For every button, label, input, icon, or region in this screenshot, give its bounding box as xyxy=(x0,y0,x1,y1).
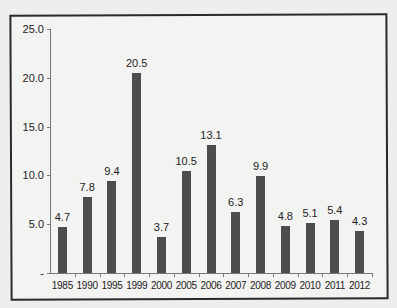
x-tick xyxy=(124,273,125,277)
x-tick-label: 2007 xyxy=(224,280,248,292)
x-tick xyxy=(347,273,348,277)
x-tick-label: 1995 xyxy=(100,280,124,292)
bar-value-label: 10.5 xyxy=(166,155,206,167)
x-tick-label: 2011 xyxy=(323,280,347,292)
x-tick-label: 2005 xyxy=(174,280,198,292)
bar-value-label: 20.5 xyxy=(117,57,157,69)
bar-value-label: 4.7 xyxy=(42,211,82,223)
bar xyxy=(83,197,92,273)
y-tick xyxy=(47,127,51,128)
y-tick-label: 15.0 xyxy=(14,121,44,133)
x-tick-label: 1985 xyxy=(50,280,74,292)
x-tick-label: 1990 xyxy=(75,280,99,292)
bar-value-label: 9.9 xyxy=(241,160,281,172)
x-tick xyxy=(372,273,373,277)
bar xyxy=(107,181,116,273)
x-tick xyxy=(174,273,175,277)
bar-value-label: 3.7 xyxy=(141,221,181,233)
bar xyxy=(207,145,216,273)
bar xyxy=(58,227,67,273)
x-tick xyxy=(199,273,200,277)
x-tick xyxy=(223,273,224,277)
y-axis xyxy=(50,29,51,274)
x-tick xyxy=(273,273,274,277)
y-tick-label: 5.0 xyxy=(14,218,44,230)
bar xyxy=(256,176,265,273)
bar-value-label: 7.8 xyxy=(67,181,107,193)
bar xyxy=(306,223,315,273)
bar xyxy=(231,212,240,273)
bar-value-label: 6.3 xyxy=(216,196,256,208)
bar-value-label: 13.1 xyxy=(191,129,231,141)
x-tick xyxy=(75,273,76,277)
bar-value-label: 4.3 xyxy=(340,215,380,227)
x-tick xyxy=(322,273,323,277)
y-tick xyxy=(47,175,51,176)
y-tick xyxy=(47,29,51,30)
x-tick-label: 2006 xyxy=(199,280,223,292)
x-tick-label: 2008 xyxy=(249,280,273,292)
y-tick-label: 25.0 xyxy=(14,23,44,35)
bar xyxy=(330,220,339,273)
x-axis xyxy=(50,273,372,274)
x-tick xyxy=(100,273,101,277)
y-tick xyxy=(47,224,51,225)
x-tick xyxy=(248,273,249,277)
y-tick-label: - xyxy=(14,267,44,279)
bar xyxy=(132,73,141,273)
bar xyxy=(182,171,191,273)
bar xyxy=(281,226,290,273)
x-tick xyxy=(298,273,299,277)
y-tick-label: 20.0 xyxy=(14,72,44,84)
bar xyxy=(157,237,166,273)
bar-value-label: 9.4 xyxy=(92,165,132,177)
x-tick-label: 1999 xyxy=(125,280,149,292)
x-tick xyxy=(149,273,150,277)
x-tick-label: 2009 xyxy=(273,280,297,292)
x-tick-label: 2000 xyxy=(149,280,173,292)
y-tick-label: 10.0 xyxy=(14,169,44,181)
x-tick-label: 2010 xyxy=(298,280,322,292)
y-tick xyxy=(47,273,51,274)
bar xyxy=(355,231,364,273)
y-tick xyxy=(47,78,51,79)
x-tick-label: 2012 xyxy=(348,280,372,292)
